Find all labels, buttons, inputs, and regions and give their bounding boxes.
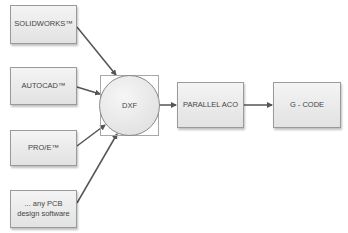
arrow-pcb-to-dxf [77, 134, 117, 203]
node-label: G - CODE [290, 100, 324, 110]
node-label: DXF [122, 101, 137, 110]
node-proe: PRO/E™ [10, 130, 77, 166]
node-dxf: DXF [99, 75, 160, 136]
node-solidworks: SOLIDWORKS™ [10, 5, 77, 44]
node-label: AUTOCAD™ [21, 81, 65, 91]
node-label: PRO/E™ [28, 143, 59, 153]
node-autocad: AUTOCAD™ [10, 67, 77, 105]
node-parallel-aco: PARALLEL ACO [177, 82, 244, 128]
node-label: PARALLEL ACO [183, 100, 238, 110]
arrow-autocad-to-dxf [77, 87, 100, 94]
node-pcb-software: ... any PCB design software [10, 190, 77, 228]
node-label: ... any PCB design software [13, 199, 74, 219]
node-g-code: G - CODE [273, 82, 341, 128]
node-label: SOLIDWORKS™ [14, 19, 72, 29]
arrow-solidworks-to-dxf [77, 27, 116, 75]
